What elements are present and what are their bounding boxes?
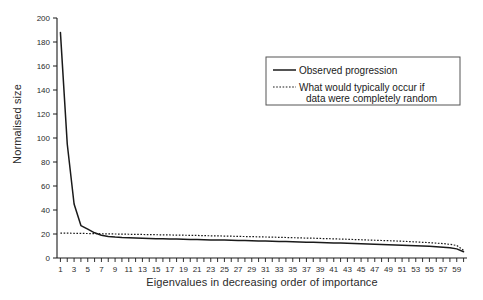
y-tick-label: 160 — [37, 62, 51, 71]
y-tick-label: 120 — [37, 110, 51, 119]
x-tick-label: 25 — [220, 265, 229, 274]
x-tick-label: 57 — [439, 265, 448, 274]
x-tick-label: 35 — [288, 265, 297, 274]
y-tick-label: 200 — [37, 14, 51, 23]
y-tick-label: 140 — [37, 86, 51, 95]
scree-plot-figure: Normalised size Eigenvalues in decreasin… — [0, 0, 483, 300]
x-tick-label: 7 — [99, 265, 104, 274]
legend-label-random-line1: What would typically occur if — [299, 82, 425, 93]
x-tick-label: 15 — [152, 265, 161, 274]
x-tick-label: 29 — [247, 265, 256, 274]
y-tick-label: 20 — [41, 230, 50, 239]
y-axis-ticks: 020406080100120140160180200 — [37, 14, 57, 263]
x-tick-label: 45 — [357, 265, 366, 274]
x-tick-label: 5 — [86, 265, 91, 274]
x-tick-label: 11 — [125, 265, 134, 274]
x-tick-label: 39 — [316, 265, 325, 274]
x-tick-label: 19 — [179, 265, 188, 274]
x-axis-title: Eigenvalues in decreasing order of impor… — [57, 276, 467, 288]
x-tick-label: 37 — [302, 265, 311, 274]
x-axis-ticks: 1357911131517192123252729313335373941434… — [58, 258, 463, 274]
legend-label-random-line2: data were completely random — [306, 93, 437, 104]
x-tick-label: 31 — [261, 265, 270, 274]
y-tick-label: 60 — [41, 182, 50, 191]
x-tick-label: 55 — [425, 265, 434, 274]
x-tick-label: 51 — [398, 265, 407, 274]
x-tick-label: 47 — [370, 265, 379, 274]
y-tick-label: 0 — [46, 254, 51, 263]
x-tick-label: 9 — [113, 265, 118, 274]
x-tick-label: 3 — [72, 265, 77, 274]
x-tick-label: 59 — [452, 265, 461, 274]
y-tick-label: 180 — [37, 38, 51, 47]
legend: Observed progression What would typicall… — [266, 57, 460, 105]
x-tick-label: 1 — [58, 265, 63, 274]
x-tick-label: 33 — [275, 265, 284, 274]
y-tick-label: 100 — [37, 134, 51, 143]
y-tick-label: 80 — [41, 158, 50, 167]
x-tick-label: 41 — [329, 265, 338, 274]
x-tick-label: 27 — [234, 265, 243, 274]
x-tick-label: 17 — [165, 265, 174, 274]
y-tick-label: 40 — [41, 206, 50, 215]
x-tick-label: 53 — [411, 265, 420, 274]
x-tick-label: 23 — [206, 265, 215, 274]
x-tick-label: 13 — [138, 265, 147, 274]
x-tick-label: 43 — [343, 265, 352, 274]
legend-label-observed: Observed progression — [299, 65, 397, 76]
x-tick-label: 49 — [384, 265, 393, 274]
y-axis-title: Normalised size — [11, 59, 23, 189]
plot-canvas: 020406080100120140160180200 135791113151… — [0, 0, 483, 300]
x-tick-label: 21 — [193, 265, 202, 274]
